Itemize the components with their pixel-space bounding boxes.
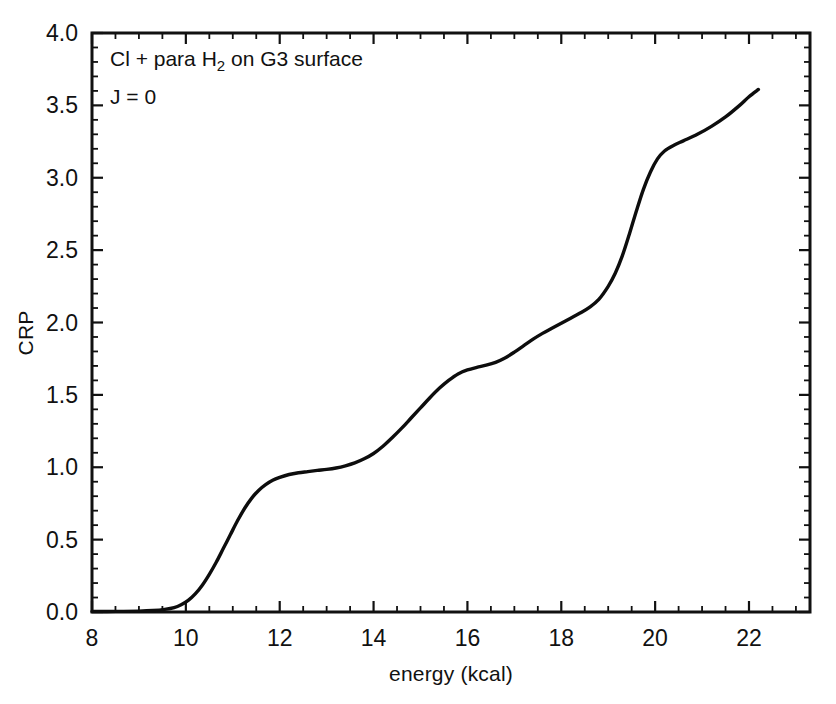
chart-canvas: 810121416182022 0.00.51.01.52.02.53.03.5… — [0, 0, 836, 704]
x-tick-label: 18 — [548, 625, 574, 651]
y-tick-label: 0.0 — [46, 599, 78, 625]
y-tick-label-group: 0.00.51.01.52.02.53.03.54.0 — [46, 20, 78, 625]
x-axis-label: energy (kcal) — [389, 662, 513, 685]
x-tick-label: 8 — [86, 625, 99, 651]
x-tick-label: 16 — [455, 625, 481, 651]
x-tick-label: 10 — [173, 625, 199, 651]
x-tick-label: 20 — [642, 625, 668, 651]
y-tick-label: 3.5 — [46, 92, 78, 118]
annotation-system-label: Cl + para H2 on G3 surface — [110, 47, 363, 74]
y-tick-label: 3.0 — [46, 165, 78, 191]
annotation-j-label: J = 0 — [110, 85, 156, 108]
y-tick-label: 0.5 — [46, 527, 78, 553]
x-tick-label: 12 — [267, 625, 293, 651]
y-tick-label: 1.5 — [46, 382, 78, 408]
y-tick-label: 4.0 — [46, 20, 78, 46]
crp-chart-figure: 810121416182022 0.00.51.01.52.02.53.03.5… — [0, 0, 836, 704]
x-tick-label: 14 — [361, 625, 387, 651]
y-tick-label: 2.5 — [46, 237, 78, 263]
x-tick-label: 22 — [736, 625, 762, 651]
y-tick-label: 1.0 — [46, 454, 78, 480]
y-tick-label: 2.0 — [46, 310, 78, 336]
y-axis-label: CRP — [14, 311, 37, 356]
